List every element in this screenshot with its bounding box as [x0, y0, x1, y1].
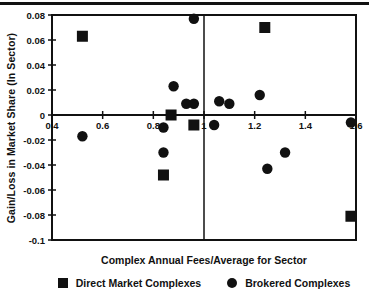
data-point-brokered	[214, 96, 224, 106]
legend-item-brokered: Brokered Complexes	[227, 277, 350, 289]
y-tick-label: -0.1	[29, 235, 46, 246]
y-tick-label: -0.06	[23, 185, 45, 196]
x-tick-label: 1	[201, 120, 207, 131]
y-axis-title: Gain/Loss in Market Share (In Sector)	[5, 33, 17, 223]
data-point-brokered	[262, 164, 272, 174]
data-point-direct-market	[166, 110, 177, 121]
data-point-brokered	[209, 120, 219, 130]
legend: Direct Market Complexes Brokered Complex…	[40, 277, 368, 289]
scatter-plot-area: 0.080.060.040.020-0.02-0.04-0.06-0.08-0.…	[0, 0, 369, 252]
data-point-direct-market	[259, 22, 270, 33]
data-point-brokered	[77, 131, 87, 141]
legend-label-brokered: Brokered Complexes	[245, 277, 350, 289]
data-point-direct-market	[345, 211, 356, 222]
data-point-brokered	[158, 122, 168, 132]
data-point-brokered	[280, 147, 290, 157]
data-point-brokered	[224, 99, 234, 109]
data-point-direct-market	[77, 31, 88, 42]
y-tick-label: 0	[40, 110, 45, 121]
data-point-brokered	[189, 99, 199, 109]
y-tick-label: 0.02	[27, 85, 46, 96]
data-point-brokered	[168, 81, 178, 91]
y-tick-label: -0.08	[23, 210, 45, 221]
data-point-brokered	[346, 117, 356, 127]
legend-label-direct-market: Direct Market Complexes	[76, 277, 201, 289]
y-tick-label: 0.04	[27, 60, 46, 71]
x-tick-label: 1.4	[299, 120, 313, 131]
x-axis-title: Complex Annual Fees/Average for Sector	[52, 254, 356, 266]
data-point-brokered	[255, 90, 265, 100]
y-tick-label: -0.02	[23, 135, 45, 146]
x-tick-label: 0.6	[96, 120, 109, 131]
circle-marker-icon	[227, 278, 237, 288]
x-tick-label: 0.4	[45, 120, 59, 131]
data-point-direct-market	[158, 170, 169, 181]
data-point-brokered	[158, 147, 168, 157]
square-marker-icon	[58, 278, 68, 288]
data-point-direct-market	[188, 120, 199, 131]
y-tick-label: 0.08	[27, 10, 46, 21]
x-tick-label: 1.2	[248, 120, 261, 131]
legend-item-direct-market: Direct Market Complexes	[58, 277, 201, 289]
y-tick-label: -0.04	[23, 160, 45, 171]
y-tick-label: 0.06	[27, 35, 46, 46]
x-tick-label: 0.8	[147, 120, 160, 131]
data-point-brokered	[189, 14, 199, 24]
